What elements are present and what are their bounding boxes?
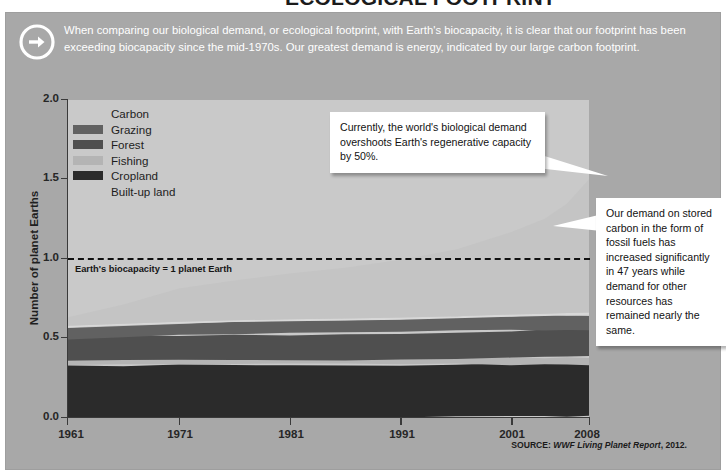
x-tick-1981 (290, 418, 291, 425)
x-tick-1971 (179, 418, 180, 425)
legend-swatch-fishing (73, 156, 103, 165)
page-title: ECOLOGICAL FOOTPRINT (285, 0, 556, 10)
source-prefix: SOURCE: (511, 440, 553, 450)
biocapacity-reference-line (68, 258, 590, 260)
callout-carbon: Our demand on stored carbon in the form … (596, 198, 726, 346)
legend-label-builtup: Built-up land (111, 185, 175, 198)
x-tick-2001 (511, 418, 512, 425)
source-suffix: , 2012. (661, 440, 687, 450)
x-tick-1991 (400, 418, 401, 425)
biocapacity-label: Earth's biocapacity = 1 planet Earth (75, 264, 232, 274)
x-tick-label-1981: 1981 (261, 428, 321, 440)
legend-swatch-builtup (73, 187, 103, 196)
intro-text: When comparing our biological demand, or… (64, 22, 712, 55)
callout-overshoot-text: Currently, the world's biological demand… (340, 120, 536, 164)
x-tick-1961 (67, 418, 68, 425)
legend-swatch-grazing (73, 125, 103, 134)
callout-carbon-text: Our demand on stored carbon in the form … (606, 206, 717, 337)
area-series-carbon (68, 179, 589, 326)
callout-overshoot: Currently, the world's biological demand… (330, 112, 545, 173)
content-panel: When comparing our biological demand, or… (5, 12, 721, 470)
y-tick-label-2: 2.0 (5, 92, 59, 104)
legend-label-grazing: Grazing (111, 123, 152, 136)
legend-item-forest: Forest (73, 137, 243, 153)
y-tick-label-1: 1.0 (5, 251, 59, 263)
legend-item-cropland: Cropland (73, 168, 243, 184)
legend-item-carbon: Carbon (73, 106, 243, 122)
source-note: SOURCE: WWF Living Planet Report, 2012. (5, 440, 687, 450)
legend-label-fishing: Fishing (111, 154, 148, 167)
x-tick-2008 (589, 418, 590, 425)
legend-label-cropland: Cropland (111, 169, 158, 182)
source-title: WWF Living Planet Report (553, 440, 660, 450)
legend-swatch-cropland (73, 171, 103, 180)
legend-item-builtup: Built-up land (73, 184, 243, 200)
y-tick-label-1_5: 1.5 (5, 171, 59, 183)
x-tick-label-1971: 1971 (150, 428, 210, 440)
legend-label-forest: Forest (111, 138, 144, 151)
chart-area: Number of planet Earths 2.0 1.5 1.0 0.5 … (5, 68, 721, 470)
screenshot-root: ECOLOGICAL FOOTPRINT When comparing our … (0, 0, 726, 473)
x-tick-label-2008: 2008 (557, 428, 617, 440)
x-tick-label-1991: 1991 (372, 428, 432, 440)
legend-item-fishing: Fishing (73, 153, 243, 169)
page-title-strip: ECOLOGICAL FOOTPRINT (0, 0, 726, 11)
intro-block: When comparing our biological demand, or… (14, 20, 714, 66)
chart-legend: Carbon Grazing Forest Fishing Cropland (73, 106, 243, 199)
arrow-right-circle-icon (19, 24, 55, 60)
y-tick-label-0: 0.0 (5, 410, 59, 422)
legend-item-grazing: Grazing (73, 122, 243, 138)
legend-label-carbon: Carbon (111, 107, 149, 120)
legend-swatch-forest (73, 140, 103, 149)
legend-swatch-carbon (73, 109, 103, 118)
x-tick-label-2001: 2001 (482, 428, 542, 440)
area-series-cropland (68, 363, 589, 417)
x-tick-label-1961: 1961 (41, 428, 101, 440)
y-tick-label-0_5: 0.5 (5, 330, 59, 342)
